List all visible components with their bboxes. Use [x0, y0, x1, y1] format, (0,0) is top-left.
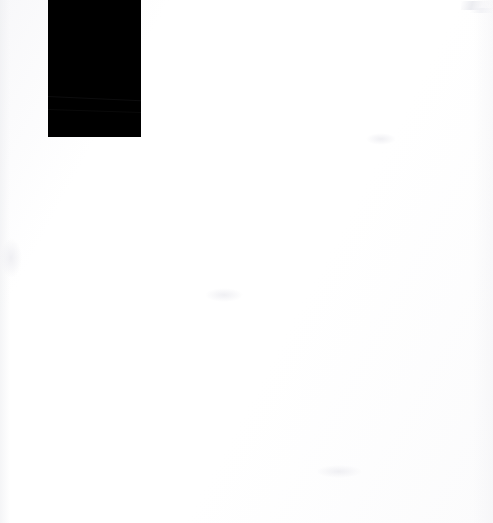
- page-smudge: [205, 288, 243, 302]
- page-smudge: [366, 133, 396, 145]
- page-smudge: [0, 238, 22, 278]
- scan-artifact-icon: [470, 8, 493, 13]
- page-smudge: [316, 465, 362, 478]
- page-canvas: [0, 0, 493, 523]
- crease-line: [48, 96, 141, 101]
- scan-artifact-icon: [461, 1, 493, 10]
- black-block: [48, 0, 141, 137]
- crease-line: [48, 109, 141, 113]
